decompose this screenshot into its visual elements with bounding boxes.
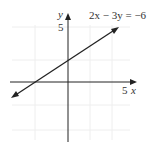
y-axis-label: y xyxy=(58,9,63,20)
x-tick-5: 5 xyxy=(122,85,128,96)
equation-label: 2x − 3y = −6 xyxy=(89,10,146,21)
y-tick-5: 5 xyxy=(58,22,64,33)
equation-line xyxy=(14,29,116,96)
graph-plot xyxy=(0,0,147,150)
line-arrow-left-icon xyxy=(11,91,19,98)
y-axis-arrow-icon xyxy=(65,13,71,20)
x-axis-label: x xyxy=(131,85,136,96)
